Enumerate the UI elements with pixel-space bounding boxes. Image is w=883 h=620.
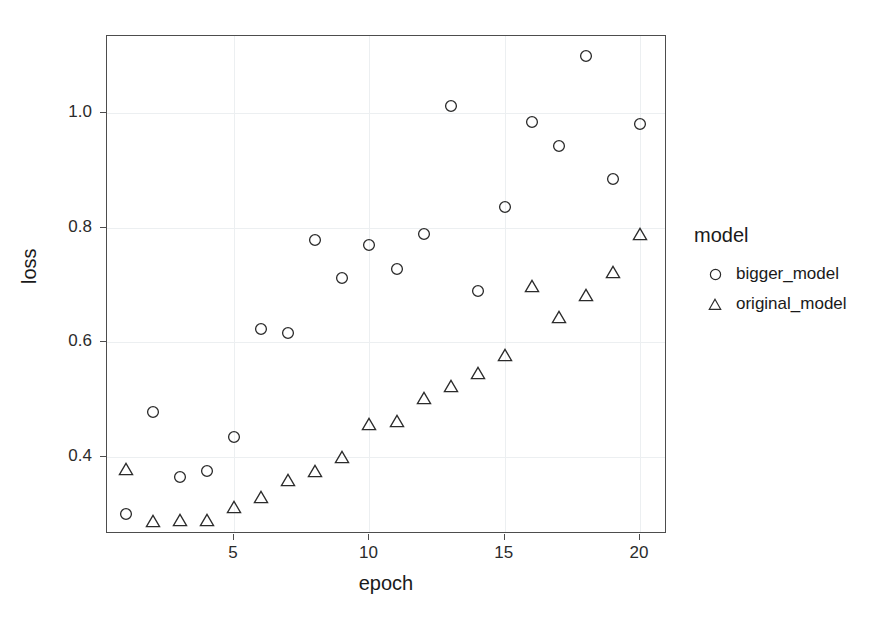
x-tick-mark — [233, 534, 234, 540]
legend-label-bigger-model: bigger_model — [736, 264, 839, 284]
y-tick-label: 0.6 — [68, 331, 92, 351]
data-point-bigger_model — [606, 172, 620, 186]
data-point-bigger_model — [308, 233, 322, 247]
data-point-original_model — [280, 473, 296, 487]
y-tick-label: 0.8 — [68, 217, 92, 237]
data-point-bigger_model — [281, 326, 295, 340]
y-tick-label: 1.0 — [68, 102, 92, 122]
scatter-plot-figure: 0.40.60.81.0 5101520 epoch loss model bi… — [0, 0, 883, 620]
gridline-horizontal — [107, 113, 665, 114]
data-point-original_model — [524, 279, 540, 293]
x-tick-mark — [504, 534, 505, 540]
data-point-original_model — [416, 391, 432, 405]
gridline-horizontal — [107, 457, 665, 458]
x-tick-label: 5 — [228, 543, 237, 563]
data-point-original_model — [605, 265, 621, 279]
data-point-original_model — [172, 513, 188, 527]
plot-area — [107, 36, 665, 532]
x-tick-label: 15 — [494, 543, 513, 563]
x-tick-mark — [639, 534, 640, 540]
data-point-original_model — [470, 366, 486, 380]
data-point-bigger_model — [525, 115, 539, 129]
y-tick-mark — [100, 227, 106, 228]
y-tick-mark — [100, 341, 106, 342]
data-point-bigger_model — [579, 49, 593, 63]
legend-title: model — [694, 224, 874, 247]
legend: model bigger_model original_model — [694, 224, 874, 319]
plot-panel — [106, 35, 666, 533]
legend-entry-bigger-model[interactable]: bigger_model — [702, 259, 874, 289]
gridline-horizontal — [107, 342, 665, 343]
data-point-original_model — [307, 464, 323, 478]
y-tick-mark — [100, 456, 106, 457]
gridline-vertical — [369, 36, 370, 532]
data-point-original_model — [389, 414, 405, 428]
triangle-marker-icon — [702, 291, 728, 317]
data-point-original_model — [199, 513, 215, 527]
legend-entry-original-model[interactable]: original_model — [702, 289, 874, 319]
gridline-vertical — [505, 36, 506, 532]
y-tick-mark — [100, 112, 106, 113]
x-tick-label: 10 — [359, 543, 378, 563]
x-tick-label: 20 — [629, 543, 648, 563]
data-point-original_model — [551, 310, 567, 324]
y-tick-label: 0.4 — [68, 446, 92, 466]
data-point-bigger_model — [254, 322, 268, 336]
gridline-vertical — [640, 36, 641, 532]
data-point-bigger_model — [444, 99, 458, 113]
legend-label-original-model: original_model — [736, 294, 847, 314]
gridline-horizontal — [107, 228, 665, 229]
data-point-bigger_model — [200, 464, 214, 478]
data-point-bigger_model — [471, 284, 485, 298]
y-axis-label: loss — [18, 248, 41, 284]
data-point-original_model — [253, 490, 269, 504]
data-point-bigger_model — [390, 262, 404, 276]
data-point-original_model — [443, 379, 459, 393]
data-point-original_model — [578, 288, 594, 302]
data-point-bigger_model — [119, 507, 133, 521]
gridline-vertical — [234, 36, 235, 532]
x-axis-label: epoch — [0, 572, 772, 595]
data-point-original_model — [145, 514, 161, 528]
data-point-bigger_model — [335, 271, 349, 285]
x-tick-mark — [368, 534, 369, 540]
data-point-bigger_model — [146, 405, 160, 419]
data-point-original_model — [118, 462, 134, 476]
data-point-bigger_model — [552, 139, 566, 153]
data-point-bigger_model — [173, 470, 187, 484]
circle-marker-icon — [702, 261, 728, 287]
